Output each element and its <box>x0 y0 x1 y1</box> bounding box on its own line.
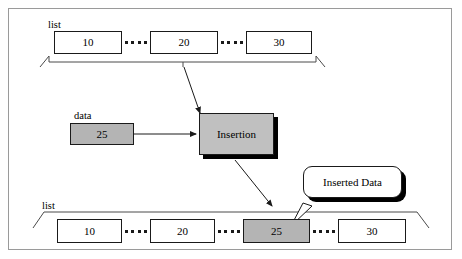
node-value: 30 <box>274 37 285 48</box>
node-value: 20 <box>177 226 188 237</box>
data-value: 25 <box>97 129 108 140</box>
top-list-brace <box>40 56 325 67</box>
insertion-process-box: Insertion <box>199 113 274 155</box>
node-value: 10 <box>83 37 94 48</box>
top-list-connector-2 <box>221 41 243 44</box>
top-list-node-10: 10 <box>54 31 122 54</box>
node-value: 20 <box>179 37 190 48</box>
node-value: 10 <box>84 226 95 237</box>
node-value: 30 <box>367 226 378 237</box>
bottom-list-connector-2 <box>218 230 240 233</box>
top-list-label: list <box>48 19 61 30</box>
arrow-insertion-to-list <box>235 160 272 206</box>
inserted-data-callout: Inserted Data <box>303 166 402 198</box>
data-box: 25 <box>70 123 134 145</box>
bottom-list-label: list <box>42 200 55 211</box>
bottom-list-node-30: 30 <box>338 219 406 243</box>
top-list-node-30: 30 <box>246 31 312 54</box>
callout-label: Inserted Data <box>323 176 382 188</box>
arrow-list-to-insertion <box>184 67 200 113</box>
top-list-node-20: 20 <box>150 31 218 54</box>
node-value: 25 <box>271 226 282 237</box>
data-label: data <box>74 110 92 121</box>
bottom-list-connector-3 <box>313 230 335 233</box>
top-list-connector-1 <box>125 41 147 44</box>
diagram-canvas: list 10 20 30 data 25 Insertion Inserted… <box>0 0 462 259</box>
bottom-list-node-20: 20 <box>150 219 215 243</box>
insertion-label: Insertion <box>217 128 256 140</box>
bottom-list-node-10: 10 <box>57 219 122 243</box>
bottom-list-connector-1 <box>125 230 147 233</box>
bottom-list-node-25: 25 <box>243 219 310 243</box>
